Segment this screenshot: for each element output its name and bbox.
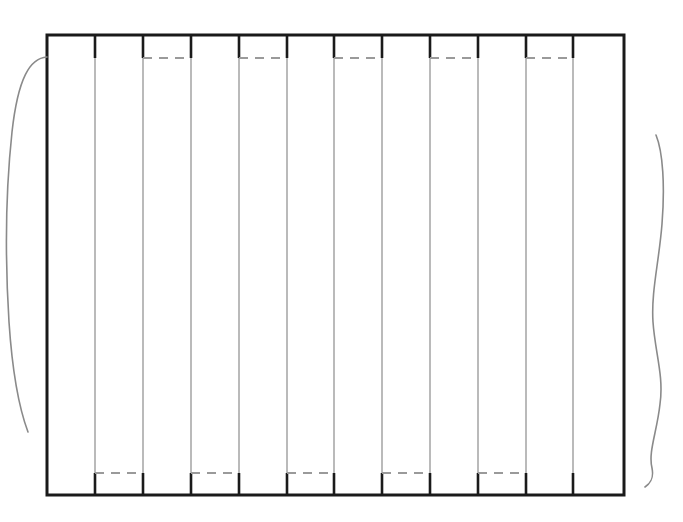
slatted-panel [47, 35, 624, 495]
panel-outline [47, 35, 624, 495]
slatted-panel-figure [0, 0, 683, 522]
figure-root [0, 0, 683, 522]
